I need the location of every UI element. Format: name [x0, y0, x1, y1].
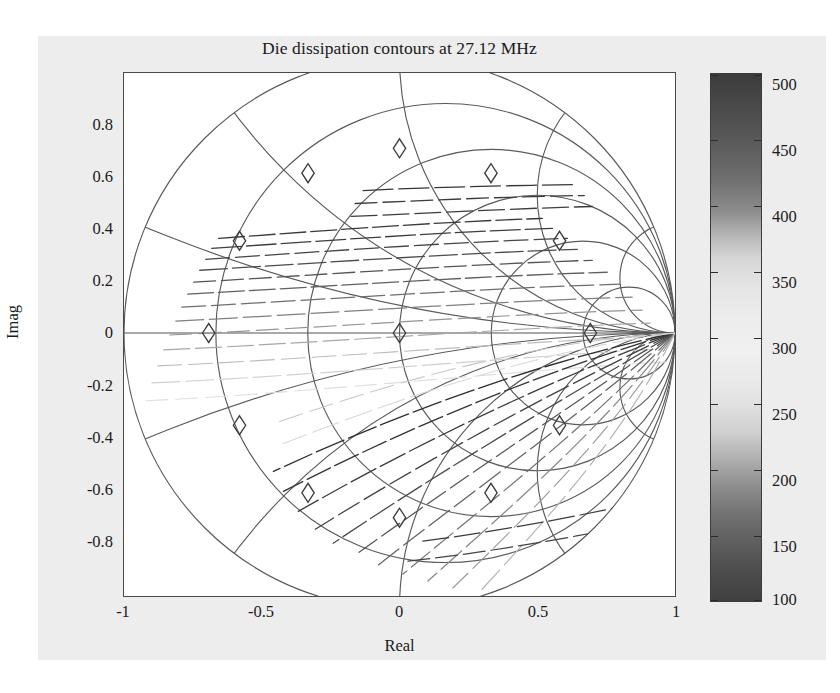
marker-diamond — [302, 164, 314, 183]
colorbar-tick — [711, 404, 718, 405]
colorbar-tick — [754, 338, 761, 339]
colorbar-tick — [711, 140, 718, 141]
colorbar-tick — [754, 536, 761, 537]
ytick-label: -0.6 — [55, 480, 113, 500]
colorbar-tick — [754, 140, 761, 141]
xtick-label: 1 — [672, 602, 680, 622]
colorbar-tick — [711, 75, 718, 76]
x-axis-label: Real — [123, 636, 676, 656]
colorbar-tick-label: 250 — [772, 405, 797, 425]
chart-title: Die dissipation contours at 27.12 MHz — [123, 38, 676, 59]
colorbar-tick — [711, 600, 718, 601]
ytick-label: -0.4 — [55, 428, 113, 448]
colorbar-tick — [754, 272, 761, 273]
colorbar-tick — [711, 272, 718, 273]
colorbar-tick-label: 500 — [772, 75, 797, 95]
colorbar-tick — [754, 470, 761, 471]
colorbar-tick — [754, 600, 761, 601]
marker-diamond — [393, 508, 405, 527]
marker-diamond — [485, 483, 497, 502]
ytick-label: 0.8 — [63, 115, 113, 135]
colorbar-tick — [711, 338, 718, 339]
colorbar-tick — [754, 75, 761, 76]
colorbar-tick-label: 350 — [772, 273, 797, 293]
ytick-label: -0.2 — [55, 376, 113, 396]
plot-axes — [123, 72, 676, 597]
xtick-label: 0 — [395, 602, 403, 622]
colorbar-tick-label: 400 — [772, 207, 797, 227]
colorbar-tick-label: 100 — [772, 590, 797, 610]
ytick-label: 0.6 — [63, 167, 113, 187]
marker-diamond — [302, 483, 314, 502]
marker-diamond — [553, 231, 565, 250]
dissipation-contours-upper — [146, 185, 667, 401]
colorbar-tick — [754, 404, 761, 405]
marker-diamond — [393, 139, 405, 158]
colorbar-tick — [711, 206, 718, 207]
smith-chart-plot — [124, 73, 675, 596]
colorbar-tick — [754, 206, 761, 207]
marker-diamond — [553, 416, 565, 435]
ytick-label: 0.4 — [63, 219, 113, 239]
colorbar-tick — [711, 470, 718, 471]
colorbar-tick-label: 450 — [772, 141, 797, 161]
xtick-label: -0.5 — [248, 602, 274, 622]
xtick-label: 0.5 — [528, 602, 549, 622]
y-axis-label: Imag — [3, 305, 23, 339]
marker-diamond — [485, 164, 497, 183]
xtick-label: -1 — [116, 602, 130, 622]
figure-container: Die dissipation contours at 27.12 MHz — [0, 0, 840, 693]
ytick-label: 0.2 — [63, 271, 113, 291]
colorbar — [710, 73, 762, 602]
colorbar-tick-label: 200 — [772, 471, 797, 491]
ytick-label: 0 — [63, 323, 113, 343]
colorbar-tick-label: 300 — [772, 339, 797, 359]
colorbar-tick — [711, 536, 718, 537]
colorbar-tick-label: 150 — [772, 537, 797, 557]
ytick-label: -0.8 — [55, 532, 113, 552]
